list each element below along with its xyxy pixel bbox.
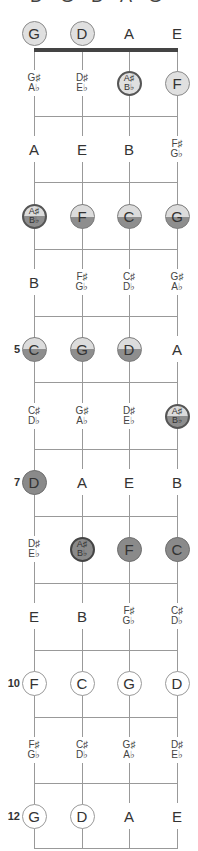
- note-marker: F: [65, 199, 99, 233]
- note-label: A: [71, 469, 93, 495]
- note-name: E: [172, 809, 182, 824]
- flat-name: E♭: [28, 549, 40, 559]
- note-name: G: [123, 676, 135, 691]
- fret-line-11: [34, 783, 178, 784]
- note-dot-icon: G: [70, 337, 95, 362]
- note-marker: C: [17, 332, 51, 366]
- note-name: C: [124, 209, 135, 224]
- flat-name: G♭: [28, 750, 41, 760]
- note-name: A♯B♭: [124, 74, 135, 92]
- note-name: A: [77, 475, 87, 490]
- note-name: B: [124, 142, 134, 157]
- note-name: C♯D♭: [123, 272, 135, 292]
- note-name: F: [29, 676, 38, 691]
- note-label: A: [118, 803, 140, 829]
- flat-name: E♭: [123, 416, 135, 426]
- note-dot-icon: A♯B♭: [70, 537, 95, 562]
- note-name: C: [77, 676, 88, 691]
- note-name: A: [29, 142, 39, 157]
- note-label: B: [71, 603, 93, 629]
- flat-name: A♭: [171, 282, 183, 292]
- note-name: A: [124, 26, 134, 41]
- note-label: G♯A♭: [118, 737, 140, 763]
- flat-name: B♭: [172, 416, 182, 425]
- note-marker: F: [160, 66, 194, 100]
- note-name: G: [76, 342, 88, 357]
- flat-name: B♭: [29, 216, 39, 225]
- note-name: A: [172, 342, 182, 357]
- note-marker: D: [160, 666, 194, 700]
- note-name: F: [124, 542, 133, 557]
- fret-number: 12: [8, 810, 20, 822]
- note-name: C: [29, 342, 40, 357]
- note-dot-icon: D: [70, 21, 95, 46]
- note-name: E: [172, 26, 182, 41]
- note-marker: A♯B♭: [112, 66, 146, 100]
- note-name: E: [77, 142, 87, 157]
- note-dot-icon: A♯B♭: [22, 204, 47, 229]
- note-dot-icon: D: [165, 671, 190, 696]
- note-marker: F: [17, 666, 51, 700]
- note-label: D♯E♭: [166, 737, 188, 763]
- flat-name: G♭: [123, 616, 136, 626]
- note-label: G♯A♭: [23, 70, 45, 96]
- fret-line-8: [34, 583, 178, 584]
- note-marker: D: [65, 799, 99, 833]
- note-marker: G: [17, 799, 51, 833]
- nut: [34, 48, 178, 52]
- fret-line-10: [34, 717, 178, 718]
- flat-name: E♭: [76, 83, 88, 93]
- note-label: E: [166, 20, 188, 46]
- note-marker: F: [112, 532, 146, 566]
- note-label: D♯E♭: [71, 70, 93, 96]
- note-name: B: [29, 275, 39, 290]
- tuning-title: D G D A G: [0, 0, 198, 7]
- note-marker: C: [112, 199, 146, 233]
- note-marker: G: [65, 332, 99, 366]
- note-name: A♯B♭: [172, 407, 183, 425]
- note-label: G♯A♭: [166, 269, 188, 295]
- note-name: D♯E♭: [171, 740, 183, 760]
- note-label: B: [23, 269, 45, 295]
- note-name: G♯A♭: [28, 73, 41, 93]
- note-dot-icon: C: [22, 337, 47, 362]
- flat-name: B♭: [77, 549, 87, 558]
- note-label: C♯D♭: [118, 269, 140, 295]
- note-name: E: [124, 475, 134, 490]
- flat-name: D♭: [123, 282, 135, 292]
- note-name: G: [171, 209, 183, 224]
- note-marker: C: [160, 532, 194, 566]
- note-name: G♯A♭: [171, 272, 184, 292]
- note-name: G: [28, 809, 40, 824]
- note-label: C♯D♭: [166, 603, 188, 629]
- note-label: C♯D♭: [23, 403, 45, 429]
- note-marker: D: [112, 332, 146, 366]
- note-dot-icon: G: [117, 671, 142, 696]
- note-dot-icon: D: [117, 337, 142, 362]
- fret-line-7: [34, 516, 178, 517]
- note-label: E: [118, 469, 140, 495]
- fretboard-diagram: D G D A G GDAEG♯A♭D♯E♭A♯B♭FAEBF♯G♭A♯B♭FC…: [0, 0, 198, 851]
- note-name: F: [172, 76, 181, 91]
- note-dot-icon: C: [117, 204, 142, 229]
- fret-line-2: [34, 182, 178, 183]
- flat-name: A♭: [76, 416, 88, 426]
- note-label: A: [118, 20, 140, 46]
- note-dot-icon: F: [117, 537, 142, 562]
- note-label: A: [166, 336, 188, 362]
- flat-name: D♭: [76, 750, 88, 760]
- note-label: A: [23, 136, 45, 162]
- note-label: D♯E♭: [23, 536, 45, 562]
- note-name: D: [29, 475, 40, 490]
- flat-name: D♭: [171, 616, 183, 626]
- note-dot-icon: C: [165, 537, 190, 562]
- note-label: G♯A♭: [71, 403, 93, 429]
- note-name: A: [124, 809, 134, 824]
- note-dot-icon: C: [70, 671, 95, 696]
- note-marker: A♯B♭: [17, 199, 51, 233]
- note-name: C: [172, 542, 183, 557]
- note-name: F: [77, 209, 86, 224]
- fret-line-5: [34, 382, 178, 383]
- note-name: F♯G♭: [76, 272, 89, 292]
- note-label: F♯G♭: [23, 737, 45, 763]
